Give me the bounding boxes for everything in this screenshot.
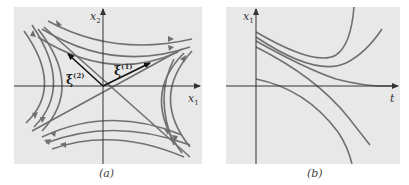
time-plot-svg: x1 t bbox=[226, 7, 400, 164]
caption-a: (a) bbox=[99, 167, 114, 180]
panel-b-time-plot: x1 t bbox=[226, 7, 400, 164]
panel-a-phase-portrait: x2 x1 ξ(1) ξ(2) bbox=[14, 7, 202, 164]
caption-b: (b) bbox=[307, 167, 323, 180]
t-axis-label: t bbox=[390, 92, 395, 105]
phase-portrait-svg: x2 x1 ξ(1) ξ(2) bbox=[14, 7, 202, 164]
